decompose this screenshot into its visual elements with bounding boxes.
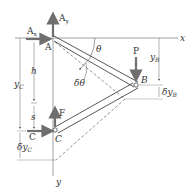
y-axis-label: y <box>55 177 62 187</box>
point-c-label: C <box>55 134 62 144</box>
delta-theta-arc <box>80 58 90 69</box>
theta-arc <box>90 38 95 58</box>
mechanism-diagram: x y θ δθ Ay Ax A P B F C C yB δyB yC <box>0 0 193 190</box>
displaced-member-ab <box>55 42 125 99</box>
member-bc <box>55 83 138 133</box>
dim-dyc-label: δyC <box>17 142 33 153</box>
dim-yb-label: yB <box>149 52 160 63</box>
dim-yc-label: yC <box>13 79 24 90</box>
point-a-label: A <box>44 42 52 52</box>
joint-b <box>134 83 138 87</box>
theta-label: θ <box>96 44 102 54</box>
delta-theta-label: δθ <box>74 78 85 88</box>
point-b-label: B <box>140 75 148 85</box>
x-axis-label: x <box>180 33 185 43</box>
dim-s-label: s <box>31 112 36 122</box>
dim-h-label: h <box>31 66 37 76</box>
displaced-member-bc <box>56 99 125 160</box>
force-c-label: C <box>29 132 36 142</box>
dim-dyb-label: δyB <box>162 87 178 98</box>
force-p-label: P <box>133 46 139 56</box>
joint-c <box>53 128 57 132</box>
force-ax-label: Ax <box>26 26 38 37</box>
force-f-label: F <box>59 108 65 118</box>
force-ay-label: Ay <box>58 13 70 25</box>
